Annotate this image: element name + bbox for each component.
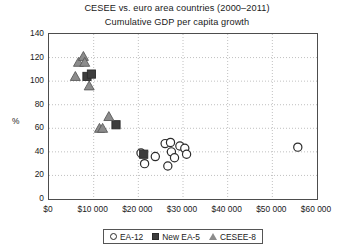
y-tick-label: 40 bbox=[4, 146, 44, 156]
y-tick-label: 120 bbox=[4, 52, 44, 62]
x-tick-label: $50 000 bbox=[256, 204, 286, 214]
series-ea-12 bbox=[137, 138, 302, 170]
chart-subtitle: Cumulative GDP per capita growth bbox=[0, 17, 354, 27]
data-point bbox=[182, 150, 190, 158]
legend-item-label: CESEE-8 bbox=[220, 232, 256, 242]
data-point bbox=[87, 70, 95, 78]
x-tick-label: $60 000 bbox=[301, 204, 331, 214]
data-point bbox=[166, 138, 174, 146]
data-point bbox=[140, 150, 148, 158]
data-point bbox=[164, 162, 172, 170]
data-point bbox=[70, 72, 80, 81]
y-tick-label: 20 bbox=[4, 169, 44, 179]
data-point bbox=[112, 121, 120, 129]
y-tick-label: 80 bbox=[4, 99, 44, 109]
x-tick-label: $0 bbox=[43, 204, 52, 214]
y-tick-label: 140 bbox=[4, 28, 44, 38]
y-tick-label: 0 bbox=[4, 193, 44, 203]
chart-title: CESEE vs. euro area countries (2000–2011… bbox=[0, 3, 354, 13]
x-axis-tick-labels: $0$10 000$20 000$30 000$40 000$50 000$60… bbox=[0, 204, 354, 218]
legend-item-label: EA-12 bbox=[120, 232, 143, 242]
triangle-marker-icon bbox=[209, 233, 217, 240]
data-point bbox=[104, 112, 114, 121]
data-points-layer bbox=[49, 34, 317, 199]
series-new-ea-5 bbox=[83, 70, 148, 158]
series-cesee-8 bbox=[70, 51, 114, 132]
x-tick-label: $40 000 bbox=[212, 204, 242, 214]
legend-item-new-ea-5[interactable]: New EA-5 bbox=[152, 232, 200, 242]
chart-figure: CESEE vs. euro area countries (2000–2011… bbox=[0, 0, 354, 250]
plot-area bbox=[48, 33, 318, 200]
circle-marker-icon bbox=[110, 233, 117, 240]
legend-item-cesee-8[interactable]: CESEE-8 bbox=[209, 232, 256, 242]
chart-legend: EA-12New EA-5CESEE-8 bbox=[103, 229, 263, 244]
x-tick-label: $10 000 bbox=[78, 204, 108, 214]
data-point bbox=[151, 152, 159, 160]
x-tick-label: $30 000 bbox=[167, 204, 197, 214]
y-tick-label: 100 bbox=[4, 75, 44, 85]
legend-item-label: New EA-5 bbox=[162, 232, 200, 242]
x-tick-label: $20 000 bbox=[122, 204, 152, 214]
y-tick-label: 60 bbox=[4, 122, 44, 132]
square-marker-icon bbox=[152, 233, 159, 240]
data-point bbox=[140, 160, 148, 168]
legend-item-ea-12[interactable]: EA-12 bbox=[110, 232, 143, 242]
data-point bbox=[84, 81, 94, 90]
data-point bbox=[294, 143, 302, 151]
data-point bbox=[170, 154, 178, 162]
